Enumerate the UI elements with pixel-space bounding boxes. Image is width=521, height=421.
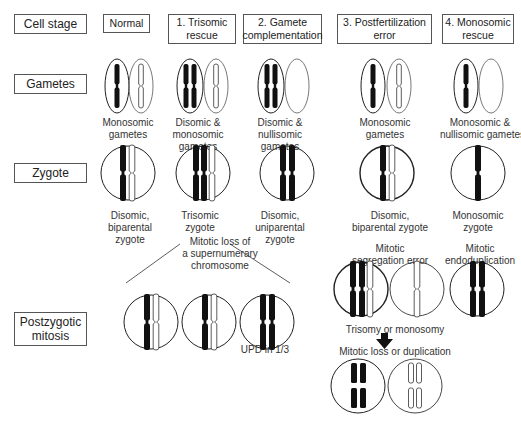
segregation-monosomic-cell xyxy=(390,261,444,317)
duplication-result-cell xyxy=(331,359,385,413)
zygote-trisomic-rescue xyxy=(176,145,230,201)
zygote-monosomic-rescue xyxy=(451,145,505,201)
gametes-monosomic-rescue xyxy=(454,59,503,113)
fan-line-left xyxy=(126,244,180,283)
gametes-postfertilization-error xyxy=(361,59,411,113)
loss-result-cell xyxy=(388,359,442,413)
gametes-trisomic-rescue xyxy=(177,59,228,113)
gametes-normal xyxy=(105,59,153,113)
zygote-normal xyxy=(101,145,155,201)
down-arrow-icon xyxy=(376,333,393,349)
zygote-gamete-complementation xyxy=(260,145,314,201)
diagram-graphics xyxy=(0,0,521,421)
gametes-gamete-complementation xyxy=(258,59,309,113)
zygote-postfertilization-error xyxy=(360,145,414,201)
fan-line-right xyxy=(230,244,290,283)
endoduplication-cell xyxy=(450,261,504,317)
segregation-trisomic-cell xyxy=(334,261,388,317)
rescue-outcome-2 xyxy=(182,294,236,350)
rescue-outcome-upd xyxy=(240,294,294,350)
rescue-outcome-1 xyxy=(124,294,178,350)
